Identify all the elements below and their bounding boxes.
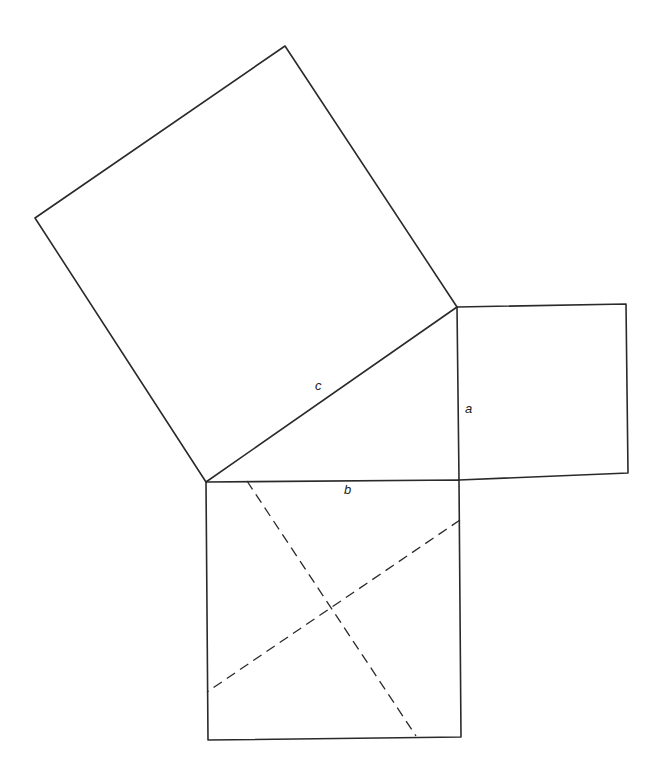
square-on-c bbox=[35, 46, 457, 482]
label-c: c bbox=[315, 378, 322, 393]
square-on-a bbox=[457, 304, 628, 480]
dashed-dissection-line-1 bbox=[247, 481, 416, 736]
side-a bbox=[457, 307, 459, 480]
pythagorean-diagram: c a b bbox=[0, 0, 663, 782]
label-a: a bbox=[465, 401, 472, 416]
square-on-b bbox=[206, 480, 461, 740]
label-b: b bbox=[344, 482, 351, 497]
dashed-dissection-line-2 bbox=[207, 520, 460, 692]
